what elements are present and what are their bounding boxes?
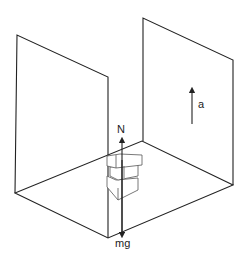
elevator-diagram: N mg a: [0, 0, 246, 262]
normal-force-label: N: [117, 123, 125, 135]
acceleration-label: a: [198, 98, 205, 110]
right-wall: [143, 18, 233, 185]
weight-label: mg: [115, 237, 130, 249]
book-stack: [107, 154, 142, 200]
left-wall: [15, 35, 108, 238]
